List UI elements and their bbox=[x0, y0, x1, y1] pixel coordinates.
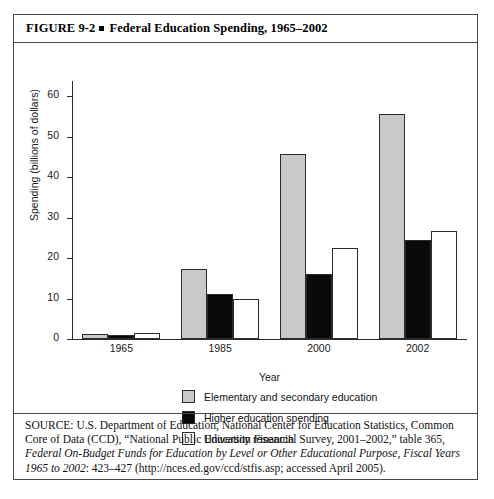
x-axis-line bbox=[72, 339, 467, 340]
legend-item: Elementary and secondary education bbox=[182, 387, 377, 406]
y-tick-label: 10 bbox=[47, 291, 59, 303]
source-note: SOURCE: U.S. Department of Education, Na… bbox=[25, 418, 468, 475]
source-divider bbox=[14, 413, 477, 414]
bar bbox=[405, 240, 431, 339]
bar bbox=[431, 231, 457, 339]
y-tick-label: 30 bbox=[47, 210, 59, 222]
bar-group: 1965 bbox=[82, 88, 160, 339]
y-tick-label: 20 bbox=[47, 250, 59, 262]
x-tick-label: 1985 bbox=[181, 342, 259, 354]
y-tick: 20 bbox=[67, 258, 72, 259]
bar bbox=[280, 154, 306, 339]
y-tick: 10 bbox=[67, 299, 72, 300]
chart-area: Spending (billions of dollars) 010203040… bbox=[14, 43, 477, 355]
figure-container: FIGURE 9-2Federal Education Spending, 19… bbox=[13, 14, 478, 480]
gray-swatch bbox=[182, 390, 195, 403]
y-tick: 0 bbox=[67, 339, 72, 340]
x-tick-label: 2000 bbox=[280, 342, 358, 354]
bar bbox=[332, 248, 358, 339]
bar bbox=[82, 334, 108, 339]
figure-number: FIGURE 9-2 bbox=[26, 21, 95, 35]
bar-group: 1985 bbox=[181, 88, 259, 339]
plot-region: 0102030405060 1965198520002002 bbox=[72, 89, 467, 340]
figure-title-text: Federal Education Spending, 1965–2002 bbox=[109, 21, 327, 35]
bar bbox=[379, 114, 405, 339]
y-axis-label: Spending (billions of dollars) bbox=[28, 89, 40, 221]
bar bbox=[207, 294, 233, 339]
y-tick: 40 bbox=[67, 177, 72, 178]
legend-label: Elementary and secondary education bbox=[204, 391, 377, 403]
figure-title: FIGURE 9-2Federal Education Spending, 19… bbox=[26, 21, 328, 36]
bar bbox=[134, 333, 160, 339]
y-tick-label: 50 bbox=[47, 129, 59, 141]
y-tick: 30 bbox=[67, 218, 72, 219]
bar-group: 2002 bbox=[379, 88, 457, 339]
x-tick-label: 2002 bbox=[379, 342, 457, 354]
square-bullet-icon bbox=[99, 26, 104, 31]
x-tick-label: 1965 bbox=[82, 342, 160, 354]
bar bbox=[108, 335, 134, 339]
y-tick-label: 0 bbox=[53, 331, 59, 343]
figure-header: FIGURE 9-2Federal Education Spending, 19… bbox=[14, 15, 477, 43]
x-axis-label: Year bbox=[72, 371, 467, 383]
y-tick-label: 40 bbox=[47, 169, 59, 181]
y-tick: 50 bbox=[67, 137, 72, 138]
y-tick-label: 60 bbox=[47, 88, 59, 100]
bar bbox=[233, 299, 259, 339]
y-axis-line bbox=[72, 81, 73, 340]
y-axis-label-host: Spending (billions of dollars) bbox=[30, 89, 44, 340]
bar bbox=[306, 274, 332, 339]
bar bbox=[181, 269, 207, 339]
source-text-part1: SOURCE: U.S. Department of Education, Na… bbox=[25, 419, 454, 445]
y-tick: 60 bbox=[67, 96, 72, 97]
source-text-part2: : 423–427 (http://nces.ed.gov/ccd/stfis.… bbox=[86, 462, 386, 474]
bar-group: 2000 bbox=[280, 88, 358, 339]
